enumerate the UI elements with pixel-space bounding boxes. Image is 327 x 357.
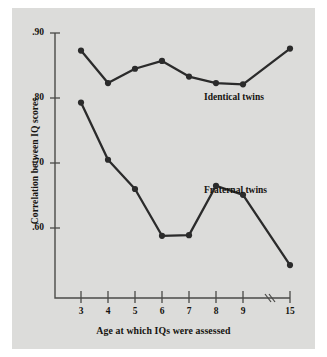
x-tick-label-7: 15	[282, 306, 298, 316]
x-tick-label-5: 8	[208, 306, 224, 316]
series-label-identical-twins: Identical twins	[204, 92, 264, 102]
y-axis-title: Correlation between IQ scores	[30, 76, 40, 246]
figure-canvas: .90 .80 .70 .60 3 4 5 6 7 8 9 15 Identic…	[0, 0, 327, 357]
data-point	[240, 81, 246, 87]
data-point	[105, 80, 111, 86]
series-line-fraternal-twins	[81, 103, 290, 265]
x-axis-tick-marks	[81, 291, 290, 303]
axis-spines	[55, 33, 290, 298]
series-label-fraternal-twins: Fraternal twins	[204, 185, 267, 195]
data-point	[186, 232, 192, 238]
data-point	[287, 46, 293, 52]
data-point	[78, 99, 84, 105]
x-tick-label-3: 6	[154, 306, 170, 316]
x-tick-label-2: 5	[127, 306, 143, 316]
data-point	[287, 262, 293, 268]
x-tick-label-1: 4	[100, 306, 116, 316]
chart-plate: .90 .80 .70 .60 3 4 5 6 7 8 9 15 Identic…	[12, 8, 315, 349]
series-markers-identical-twins	[78, 46, 293, 88]
data-point	[78, 47, 84, 53]
data-point	[105, 157, 111, 163]
data-point	[186, 73, 192, 79]
series-line-identical-twins	[81, 49, 290, 85]
chart-plot-area	[12, 8, 315, 349]
data-point	[132, 66, 138, 72]
data-point	[132, 186, 138, 192]
y-tick-label-0: .90	[18, 27, 44, 37]
series-markers-fraternal-twins	[78, 99, 293, 268]
x-axis-title: Age at which IQs were assessed	[0, 325, 327, 336]
x-tick-label-6: 9	[235, 306, 251, 316]
data-point	[213, 80, 219, 86]
x-tick-label-4: 7	[181, 306, 197, 316]
data-point	[159, 233, 165, 239]
data-point	[159, 58, 165, 64]
x-tick-label-0: 3	[73, 306, 89, 316]
